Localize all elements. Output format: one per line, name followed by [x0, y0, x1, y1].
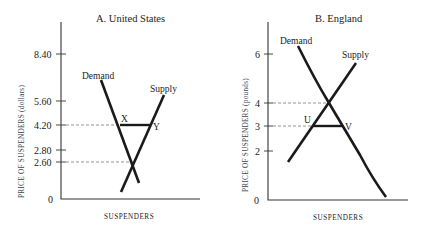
tick-label: 2	[255, 146, 260, 157]
panel-title: B. England	[315, 13, 363, 24]
demand-curve	[101, 80, 139, 183]
tick-label: 0	[48, 194, 53, 205]
x-axis-label: SUSPENDERS	[313, 214, 363, 222]
figure: A. United States PRICE OF SUSPENDERS (do…	[0, 0, 423, 234]
tick-label: 2.80	[34, 145, 52, 156]
supply-curve	[288, 63, 356, 162]
panel-title: A. United States	[96, 13, 165, 24]
tick-label: 4.20	[34, 120, 52, 131]
tick-label: 2.60	[34, 157, 52, 168]
panel-england: B. England PRICE OF SUSPENDERS (pounds) …	[242, 13, 408, 222]
tick-label: 0	[254, 195, 259, 206]
demand-label: Demand	[280, 36, 312, 46]
tick-label: 8.40	[34, 49, 52, 60]
supply-label: Supply	[342, 50, 369, 60]
tick-label: 6	[255, 49, 260, 60]
demand-curve	[298, 46, 386, 197]
point-v-label: V	[345, 122, 352, 132]
tick-label: 5.60	[34, 96, 52, 107]
point-x-label: X	[121, 114, 128, 124]
panel-united-states: A. United States PRICE OF SUSPENDERS (do…	[18, 13, 200, 221]
x-axis-label: SUSPENDERS	[104, 213, 154, 221]
point-y-label: Y	[153, 122, 160, 132]
y-axis-label: PRICE OF SUSPENDERS (pounds)	[242, 78, 250, 192]
axes	[268, 22, 408, 200]
demand-label: Demand	[82, 71, 114, 81]
y-axis-label: PRICE OF SUSPENDERS (dollars)	[18, 85, 26, 198]
tick-label: 3	[255, 121, 260, 132]
tick-label: 4	[255, 98, 260, 109]
supply-curve	[121, 95, 164, 192]
point-u-label: U	[304, 115, 311, 125]
supply-label: Supply	[150, 84, 177, 94]
